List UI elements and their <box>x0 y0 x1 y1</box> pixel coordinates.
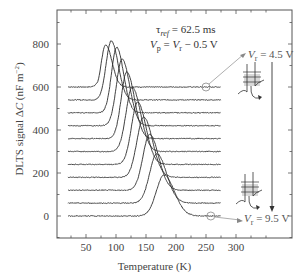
pointer-line-bottom <box>215 217 240 220</box>
x-tick-label: 100 <box>108 241 125 253</box>
y-tick-label: 600 <box>33 81 50 93</box>
x-tick-label: 200 <box>168 241 185 253</box>
tau-ref-label: τref = 62.5 ms <box>156 23 216 38</box>
x-tick-label: 150 <box>138 241 155 253</box>
x-axis-title: Temperature (K) <box>118 260 192 273</box>
arrowhead-top-icon <box>240 53 246 58</box>
band-shade <box>244 74 260 86</box>
dlts-curve <box>68 154 221 204</box>
band-shade <box>242 184 258 196</box>
band-diagram-bottom <box>236 172 262 210</box>
dlts-curve <box>68 134 221 190</box>
emission-arrowhead-icon <box>258 95 262 100</box>
band-bend <box>238 90 247 94</box>
y-tick-label: 400 <box>33 124 50 136</box>
y-axis-title: DLTS signal ΔC (nF m−2) <box>13 62 26 175</box>
x-tick-label: 300 <box>228 241 245 253</box>
arrowhead-bottom-icon <box>237 218 243 223</box>
x-tick-label: 50 <box>81 241 93 253</box>
pointer-line-top <box>209 54 244 84</box>
dlts-chart: 501001502002503000200400600800Temperatur… <box>0 0 308 280</box>
x-tick-label: 250 <box>198 241 215 253</box>
dlts-curve <box>68 102 221 165</box>
band-diagram-top <box>238 62 264 100</box>
plot-area <box>68 41 275 223</box>
dlts-curve <box>68 59 221 126</box>
vr-bottom-label: Vr = 9.5 V <box>244 212 289 227</box>
emission-arrowhead-icon <box>256 205 260 210</box>
vp-label: Vp = Vr − 0.5 V <box>150 38 218 53</box>
band-bend <box>236 200 245 204</box>
dlts-curve <box>68 45 221 87</box>
y-tick-label: 0 <box>44 210 50 222</box>
y-tick-label: 800 <box>33 38 50 50</box>
y-tick-label: 200 <box>33 167 50 179</box>
dlts-curve <box>68 47 221 113</box>
vr-top-label: Vr = 4.5 V <box>248 48 293 63</box>
dlts-curve <box>68 175 221 216</box>
